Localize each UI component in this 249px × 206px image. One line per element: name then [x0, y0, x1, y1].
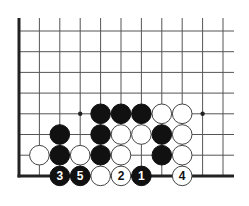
- white-stone: [172, 145, 192, 165]
- black-stone: [132, 104, 152, 124]
- white-stone: [132, 125, 152, 145]
- black-stone-disc: [111, 104, 131, 124]
- white-stone-disc: [91, 166, 111, 186]
- move-number: 3: [56, 169, 63, 183]
- black-stone-disc: [132, 104, 152, 124]
- white-stone-disc: [172, 125, 192, 145]
- white-stone-disc: [132, 125, 152, 145]
- black-stone-disc: [152, 125, 172, 145]
- move-number: 5: [77, 169, 84, 183]
- white-stone-move-2: 2: [111, 166, 131, 186]
- black-stone: [50, 145, 70, 165]
- black-stone-disc: [91, 125, 111, 145]
- move-number: 2: [118, 169, 125, 183]
- move-number: 1: [138, 169, 145, 183]
- white-stone: [111, 145, 131, 165]
- white-stone: [172, 104, 192, 124]
- black-stone-disc: [91, 104, 111, 124]
- black-stone: [50, 125, 70, 145]
- white-stone-disc: [30, 145, 50, 165]
- white-stone: [111, 125, 131, 145]
- black-stone: [152, 125, 172, 145]
- go-board: 35214: [0, 0, 249, 206]
- white-stone: [172, 125, 192, 145]
- white-stone-disc: [70, 145, 90, 165]
- black-stone: [91, 145, 111, 165]
- move-number: 4: [179, 169, 186, 183]
- star-point: [78, 112, 82, 116]
- white-stone-disc: [152, 104, 172, 124]
- white-stone: [152, 104, 172, 124]
- white-stone: [70, 145, 90, 165]
- black-stone: [111, 104, 131, 124]
- black-stone: [91, 125, 111, 145]
- black-stone-disc: [50, 145, 70, 165]
- black-stone-disc: [91, 145, 111, 165]
- black-stone-move-1: 1: [132, 166, 152, 186]
- white-stone-disc: [111, 125, 131, 145]
- black-stone-disc: [152, 145, 172, 165]
- black-stone: [152, 145, 172, 165]
- stones: 35214: [30, 104, 192, 186]
- star-point: [200, 112, 204, 116]
- black-stone-move-5: 5: [70, 166, 90, 186]
- white-stone-move-4: 4: [172, 166, 192, 186]
- white-stone-disc: [111, 145, 131, 165]
- white-stone-disc: [172, 145, 192, 165]
- white-stone: [91, 166, 111, 186]
- black-stone-move-3: 3: [50, 166, 70, 186]
- black-stone-disc: [50, 125, 70, 145]
- white-stone-disc: [172, 104, 192, 124]
- black-stone: [91, 104, 111, 124]
- white-stone: [30, 145, 50, 165]
